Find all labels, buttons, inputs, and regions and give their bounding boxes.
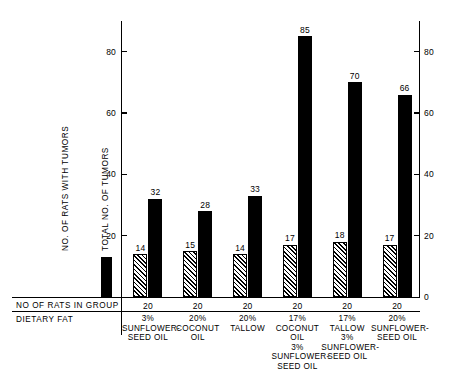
- legend-label-rats-with-tumors: NO. OF RATS WITH TUMORS: [61, 126, 70, 251]
- bar: [198, 211, 212, 297]
- bar: [183, 251, 197, 297]
- bar-value-label: 28: [194, 200, 216, 210]
- bar: [248, 196, 262, 297]
- chart-legend: NO. OF RATS WITH TUMORS TOTAL NO. OF TUM…: [0, 0, 121, 297]
- bar-value-label: 70: [344, 71, 366, 81]
- bar: [283, 245, 297, 297]
- table-cell-dietary-fat-line: TALLOW: [321, 324, 373, 334]
- y-tick-label-right-40: 40: [424, 169, 446, 179]
- table-cell-dietary-fat-line: 20%: [172, 314, 224, 324]
- bar-group: 1766: [383, 21, 412, 297]
- table-cell-dietary-fat: 17%COCONUTOIL3%SUNFLOWER-SEED OIL: [271, 314, 323, 372]
- chart-figure: NO. OF RATS WITH TUMORS TOTAL NO. OF TUM…: [0, 0, 461, 375]
- table-row-label-rats-in-group: NO OF RATS IN GROUP: [16, 301, 119, 310]
- table-cell-dietary-fat-line: SEED OIL: [122, 333, 174, 343]
- table-cell-dietary-fat-line: 20%: [222, 314, 274, 324]
- legend-swatch-solid: [101, 257, 112, 297]
- data-table: NO OF RATS IN GROUP DIETARY FAT 203%SUNF…: [12, 297, 420, 359]
- table-cell-dietary-fat-line: COCONUT: [172, 324, 224, 334]
- y-tick-label-left-80: 80: [94, 47, 116, 57]
- table-cell-dietary-fat-line: SUNFLOWER-: [371, 324, 423, 334]
- table-cell-rats-in-group: 20: [223, 301, 273, 311]
- table-cell-dietary-fat-line: 20%: [371, 314, 423, 324]
- bar-value-label: 32: [144, 187, 166, 197]
- table-cell-dietary-fat-line: SEED OIL: [271, 362, 323, 372]
- table-cell-dietary-fat: 20%SUNFLOWER-SEED OIL: [371, 314, 423, 343]
- table-cell-dietary-fat-line: 17%: [321, 314, 373, 324]
- y-tick-label-right-0: 0: [424, 292, 446, 302]
- table-cell-dietary-fat: 20%TALLOW: [222, 314, 274, 333]
- table-cell-dietary-fat-line: SEED OIL: [371, 333, 423, 343]
- table-cell-dietary-fat-line: 3%: [321, 333, 373, 343]
- table-cell-dietary-fat-line: SUNFLOWER-: [122, 324, 174, 334]
- table-cell-dietary-fat-line: OIL: [271, 333, 323, 343]
- y-tick-label-right-80: 80: [424, 47, 446, 57]
- table-cell-rats-in-group: 20: [322, 301, 372, 311]
- table-cell-dietary-fat: 3%SUNFLOWER-SEED OIL: [122, 314, 174, 343]
- legend-swatch-hatched: [61, 257, 72, 297]
- bar-value-label: 66: [394, 83, 416, 93]
- table-cell-dietary-fat-line: OIL: [172, 333, 224, 343]
- bar: [298, 36, 312, 297]
- y-tick-label-right-60: 60: [424, 108, 446, 118]
- table-cell-dietary-fat: 20%COCONUTOIL: [172, 314, 224, 343]
- bar: [348, 82, 362, 297]
- table-cell-rats-in-group: 20: [173, 301, 223, 311]
- bar-group: 1432: [133, 21, 162, 297]
- table-cell-dietary-fat-line: 3%: [271, 343, 323, 353]
- y-tick-label-left-60: 60: [94, 108, 116, 118]
- table-cell-dietary-fat-line: 3%: [122, 314, 174, 324]
- bar-group: 1433: [233, 21, 262, 297]
- table-cell-dietary-fat: 17%TALLOW3%SUNFLOWER-SEED OIL: [321, 314, 373, 362]
- bar: [398, 95, 412, 297]
- bar-group: 1528: [183, 21, 212, 297]
- bar: [148, 199, 162, 297]
- bar: [233, 254, 247, 297]
- table-cell-dietary-fat-line: TALLOW: [222, 324, 274, 334]
- plot-area: 143215281433178518701766: [121, 21, 420, 297]
- table-rule-middle: [12, 311, 420, 312]
- bar: [383, 245, 397, 297]
- bar-group: 1870: [333, 21, 362, 297]
- table-cell-rats-in-group: 20: [123, 301, 173, 311]
- table-row-label-dietary-fat: DIETARY FAT: [16, 315, 73, 324]
- table-cell-dietary-fat-line: 17%: [271, 314, 323, 324]
- table-cell-rats-in-group: 20: [372, 301, 422, 311]
- table-cell-rats-in-group: 20: [272, 301, 322, 311]
- table-cell-dietary-fat-line: SUNFLOWER-: [271, 352, 323, 362]
- bar-value-label: 33: [244, 184, 266, 194]
- bar: [133, 254, 147, 297]
- table-rule-top: [12, 297, 420, 298]
- table-cell-dietary-fat-line: SUNFLOWER-: [321, 343, 373, 353]
- bar-group: 1785: [283, 21, 312, 297]
- table-cell-dietary-fat-line: SEED OIL: [321, 352, 373, 362]
- y-tick-label-right-20: 20: [424, 231, 446, 241]
- table-cell-dietary-fat-line: COCONUT: [271, 324, 323, 334]
- y-tick-label-left-20: 20: [94, 231, 116, 241]
- bar: [333, 242, 347, 297]
- y-tick-label-left-40: 40: [94, 169, 116, 179]
- bar-value-label: 85: [294, 25, 316, 35]
